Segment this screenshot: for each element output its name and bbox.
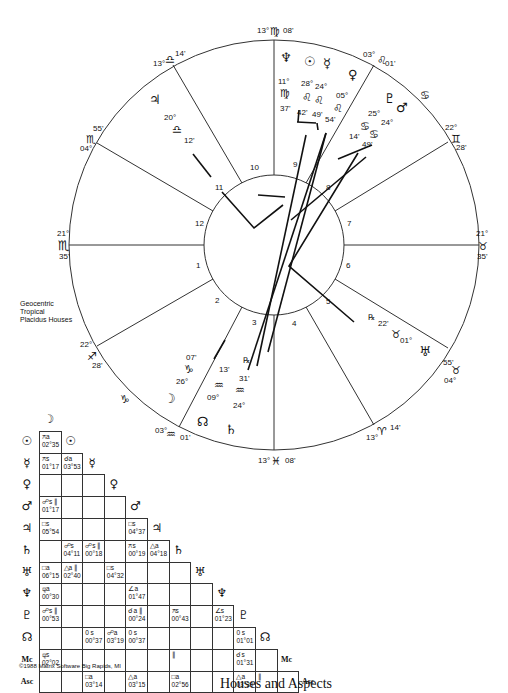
aspect-grid-label: ☊: [256, 630, 274, 644]
aspect-symbol: ⚻s: [172, 607, 189, 615]
aspect-cell: [82, 562, 105, 585]
aspect-orb: 01°17: [42, 463, 59, 471]
svg-text:42': 42': [297, 108, 308, 117]
aspect-grid-label: ♃: [148, 521, 166, 535]
svg-text:12: 12: [195, 219, 204, 228]
aspect-grid-row-label: ☿: [18, 456, 36, 470]
svg-text:05°: 05°: [336, 91, 348, 100]
aspect-symbol: ☍s ∥: [42, 498, 59, 506]
svg-text:08': 08': [285, 456, 296, 465]
aspect-orb: 03°19: [107, 637, 124, 645]
svg-text:28°: 28°: [301, 79, 313, 88]
svg-text:♑: ♑: [184, 363, 194, 376]
aspect-symbol: □s: [107, 564, 124, 572]
aspect-cell: [61, 627, 84, 650]
aspect-cell: [82, 605, 105, 628]
aspect-grid-row-label: ♆: [18, 586, 36, 600]
aspect-cell: ☌a ∥00°24: [125, 605, 148, 628]
svg-text:54': 54': [325, 115, 336, 124]
svg-text:♌: ♌: [302, 91, 312, 104]
svg-text:13': 13': [219, 365, 230, 374]
aspect-orb: 01°01: [236, 637, 253, 645]
svg-text:♒: ♒: [214, 379, 224, 392]
svg-text:26°: 26°: [176, 377, 188, 386]
aspect-symbol: ⚻a: [42, 433, 59, 441]
aspect-orb: 00°53: [42, 615, 59, 623]
aspect-cell: ⚻s00°19: [125, 540, 148, 563]
aspect-cell: [104, 496, 127, 519]
aspect-grid-label: ♂: [126, 499, 144, 513]
aspect-symbol: ∠s: [215, 607, 232, 615]
aspect-cell: [147, 627, 170, 650]
svg-text:♒: ♒: [166, 428, 176, 441]
aspect-cell: [190, 649, 213, 672]
svg-text:♌: ♌: [333, 102, 343, 115]
svg-text:13°: 13°: [258, 456, 270, 465]
node-glyph: ☊: [197, 414, 209, 429]
chart-legend: Geocentric Tropical Placidus Houses: [20, 300, 72, 324]
jupiter-glyph: ♃: [149, 92, 161, 107]
pluto-glyph: ♇: [384, 91, 396, 106]
svg-text:♏: ♏: [58, 238, 70, 253]
svg-text:01': 01': [180, 433, 191, 442]
aspect-cell: [104, 540, 127, 563]
aspect-cell: □a06°15: [39, 562, 62, 585]
aspect-symbol: ∠a: [128, 585, 145, 593]
aspect-cell: [104, 671, 127, 693]
aspect-orb: 02°35: [42, 441, 59, 449]
aspect-orb: 06°15: [42, 572, 59, 580]
aspect-grid-row-label: ♂: [18, 499, 36, 513]
aspect-cell: ☌s01°31: [233, 649, 256, 672]
svg-text:04°: 04°: [80, 144, 92, 153]
aspect-orb: 05°54: [42, 528, 59, 536]
svg-text:49': 49': [312, 110, 323, 119]
svg-text:13°: 13°: [257, 26, 269, 35]
aspect-grid-label: ☉: [62, 434, 80, 448]
mars-glyph: ♂: [396, 100, 408, 115]
aspect-cell: ☍s ∥00°18: [82, 540, 105, 563]
moon-glyph: ☽: [164, 391, 176, 406]
aspect-cell: [104, 583, 127, 606]
aspect-symbol: △a ∥: [64, 564, 81, 572]
aspect-cell: [212, 627, 235, 650]
aspect-cell: △a04°18: [147, 540, 170, 563]
svg-text:01': 01': [385, 59, 396, 68]
svg-text:14': 14': [390, 423, 401, 432]
aspect-symbol: 0 s: [85, 629, 102, 637]
aspect-symbol: ⚻s: [42, 455, 59, 463]
svg-text:♓: ♓: [271, 455, 281, 468]
aspect-orb: 00°18: [85, 550, 102, 558]
aspect-cell: [125, 649, 148, 672]
aspect-orb: 00°37: [128, 637, 145, 645]
aspect-cell: 0 s00°37: [82, 627, 105, 650]
aspect-cell: □a03°14: [82, 671, 105, 693]
aspect-grid-label: ☿: [83, 456, 101, 470]
aspect-cell: [169, 627, 192, 650]
svg-text:07': 07': [186, 353, 197, 362]
svg-text:8: 8: [326, 183, 331, 192]
aspect-cell: [39, 671, 62, 693]
aspect-cell: ☌a03°53: [61, 453, 84, 476]
aspect-symbol: △a: [128, 673, 145, 681]
aspect-orb: 01°47: [128, 593, 145, 601]
aspect-symbol: □a: [172, 673, 189, 681]
uranus-glyph: ♅: [419, 344, 431, 359]
svg-text:2: 2: [215, 296, 220, 305]
svg-text:12': 12': [184, 136, 195, 145]
aspect-cell: [169, 562, 192, 585]
aspect-symbol: ☍s ∥: [42, 607, 59, 615]
aspect-cell: [212, 649, 235, 672]
aspect-cell: [82, 518, 105, 541]
aspect-cell: [61, 474, 84, 497]
aspect-orb: 00°37: [85, 637, 102, 645]
legend-line: Geocentric: [20, 300, 72, 308]
footer-title: Houses and Aspects: [220, 676, 332, 692]
aspect-symbol: ☍a: [107, 629, 124, 637]
aspect-grid-label: ♄: [170, 543, 188, 557]
house-numbers: 1 2 3 4 5 6 7 8 9 10 11 12: [195, 160, 352, 328]
svg-text:28': 28': [92, 361, 103, 370]
aspect-orb: 04°11: [64, 550, 81, 558]
aspect-symbol: ⚻s: [128, 542, 145, 550]
svg-text:℞: ℞: [368, 313, 375, 322]
aspect-cell: ☍a03°19: [104, 627, 127, 650]
